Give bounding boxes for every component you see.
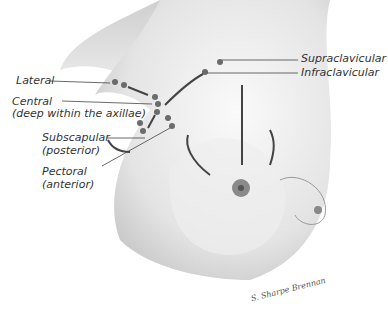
label-subscapular-note: (posterior)	[42, 145, 100, 157]
label-pectoral-note: (anterior)	[42, 179, 94, 191]
label-infraclavicular: Infraclavicular	[301, 67, 379, 79]
label-pectoral: Pectoral	[42, 166, 87, 178]
label-supraclavicular: Supraclavicular	[301, 53, 386, 65]
label-subscapular: Subscapular	[42, 132, 110, 144]
lymph-node-diagram: Lateral Central (deep within the axillae…	[0, 0, 388, 312]
label-central-note: (deep within the axillae)	[12, 108, 146, 120]
label-lateral: Lateral	[16, 75, 54, 87]
